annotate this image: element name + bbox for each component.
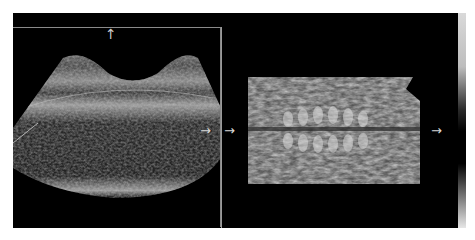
- spine-3d-render: [248, 77, 420, 184]
- marker-arrow-left-panel-icon: →: [200, 124, 211, 137]
- grayscale-bar: [458, 13, 466, 228]
- panel-divider: [221, 27, 222, 228]
- marker-arrow-divider-icon: →: [224, 124, 235, 137]
- orientation-up-arrow-icon: ↑: [105, 28, 117, 41]
- scan-frame: [13, 27, 221, 227]
- marker-arrow-volume-icon: →: [431, 124, 442, 137]
